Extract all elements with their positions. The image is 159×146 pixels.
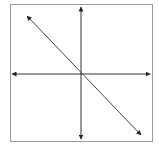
coordinate-plane [0,0,159,146]
